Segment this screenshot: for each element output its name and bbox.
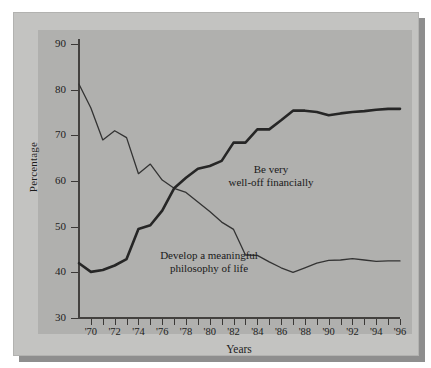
series-label-philosophy: Develop a meaningful philosophy of life [134, 249, 284, 275]
series-line-wealth [79, 109, 400, 272]
figure-card: 90807060504030 '70'72'74'76'78'80'82'84'… [13, 12, 419, 356]
chart-figure: 90807060504030 '70'72'74'76'78'80'82'84'… [0, 0, 431, 368]
series-label-wealth: Be very well-off financially [210, 163, 332, 189]
